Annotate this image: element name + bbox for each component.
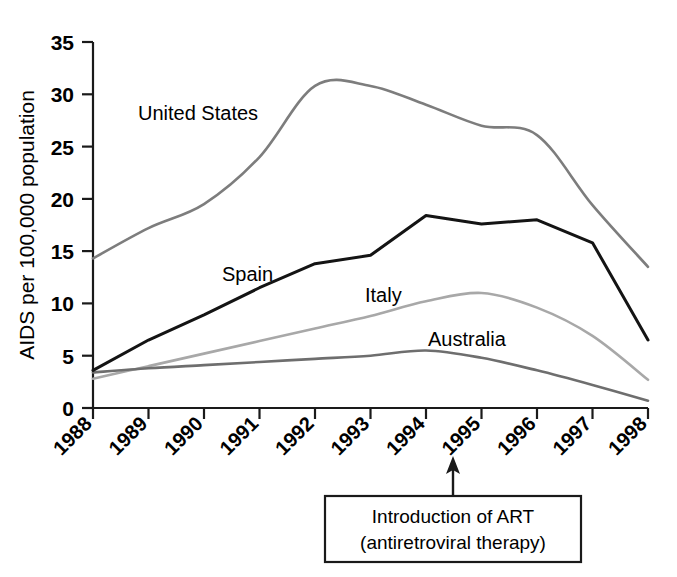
series-label-australia: Australia — [428, 328, 507, 350]
x-tick-label-1996: 1996 — [493, 412, 540, 459]
chart-canvas: 35 30 25 20 15 10 5 0 AIDS per 100,000 p… — [0, 0, 677, 577]
y-tick-label-10: 10 — [51, 292, 74, 315]
y-tick-label-0: 0 — [62, 397, 74, 420]
series-label-italy: Italy — [365, 284, 402, 306]
x-tick-label-1991: 1991 — [215, 412, 262, 459]
x-tick-label-1997: 1997 — [548, 412, 595, 459]
y-tick-label-5: 5 — [62, 345, 74, 368]
x-axis: 1988 1989 1990 1991 1992 1993 1994 1995 … — [49, 408, 651, 459]
annotation-line-2: (antiretroviral therapy) — [360, 532, 546, 553]
y-tick-label-35: 35 — [51, 31, 75, 54]
y-tick-label-25: 25 — [51, 136, 75, 159]
art-annotation: Introduction of ART (antiretroviral ther… — [325, 456, 581, 562]
y-axis: 35 30 25 20 15 10 5 0 AIDS per 100,000 p… — [15, 31, 93, 420]
x-tick-label-1993: 1993 — [326, 412, 373, 459]
x-tick-label-1995: 1995 — [437, 412, 484, 459]
aids-incidence-chart-figure: 35 30 25 20 15 10 5 0 AIDS per 100,000 p… — [0, 0, 677, 577]
y-tick-label-30: 30 — [51, 83, 74, 106]
series-label-united-states: United States — [138, 102, 258, 124]
series-line-australia — [93, 350, 648, 400]
x-tick-label-1989: 1989 — [104, 412, 151, 459]
y-axis-title: AIDS per 100,000 population — [15, 90, 38, 360]
series-label-spain: Spain — [222, 263, 273, 285]
annotation-line-1: Introduction of ART — [372, 506, 535, 527]
series-group — [93, 80, 648, 401]
x-tick-label-1998: 1998 — [604, 412, 651, 459]
series-labels: United States Spain Italy Australia — [138, 102, 507, 350]
x-tick-label-1992: 1992 — [271, 412, 318, 459]
x-tick-label-1988: 1988 — [49, 412, 96, 459]
x-tick-label-1990: 1990 — [160, 412, 207, 459]
x-tick-label-1994: 1994 — [382, 412, 430, 460]
y-tick-label-20: 20 — [51, 188, 74, 211]
y-tick-label-15: 15 — [51, 240, 75, 263]
